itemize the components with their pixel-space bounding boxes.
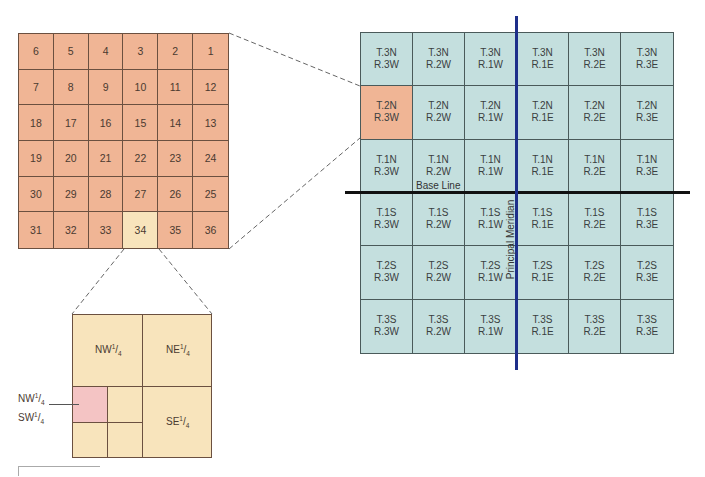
range-label: R.2W [426,219,451,231]
ne-quarter-label: NE1/4 [166,343,190,357]
township-cell: T.1NR.3E [621,140,673,193]
township-label: T.2S [637,260,657,272]
township-label: T.2N [480,100,501,112]
section-cell: 18 [19,105,54,141]
range-label: R.3E [636,326,658,338]
section-cell: 23 [158,141,193,177]
range-label: R.2W [426,326,451,338]
section-cell: 24 [193,141,228,177]
township-cell: T.3SR.3W [361,300,413,353]
range-label: R.1E [531,59,553,71]
township-label: T.2N [584,100,605,112]
township-cell: T.1NR.1W [465,140,517,193]
range-label: R.3E [636,166,658,178]
township-label: T.1S [584,207,604,219]
township-cell: T.3NR.3W [361,33,413,86]
range-label: R.2W [426,59,451,71]
township-cell: T.2SR.2E [569,246,621,299]
township-label: T.2N [637,100,658,112]
township-cell: T.1NR.3W [361,140,413,193]
subquarter-callout-label: NW1/4 SW1/4 [18,390,45,429]
subquarter-hline [73,422,143,423]
township-cell: T.2SR.2W [413,246,465,299]
township-cell: T.2NR.3E [621,86,673,139]
township-cell: T.3SR.1W [465,300,517,353]
township-cell: T.1SR.3W [361,193,413,246]
quarter-hline [73,386,211,387]
township-cell: T.2NR.2W [413,86,465,139]
township-label: T.2N [428,100,449,112]
range-label: R.1W [478,59,503,71]
township-label: T.3N [376,47,397,59]
range-label: R.3W [374,219,399,231]
section-cell: 17 [54,105,89,141]
section-cell: 33 [89,212,124,248]
section-cell: 1 [193,34,228,70]
township-cell: T.3SR.1E [517,300,569,353]
section-cell: 21 [89,141,124,177]
range-label: R.3W [374,326,399,338]
township-cell: T.3NR.1E [517,33,569,86]
range-label: R.1E [531,112,553,124]
township-cell: T.3NR.2W [413,33,465,86]
township-cell: T.1NR.2E [569,140,621,193]
township-label: T.1N [376,154,397,166]
township-label: T.2S [532,260,552,272]
township-label: T.1S [428,207,448,219]
township-label: T.3N [480,47,501,59]
township-label: T.3N [532,47,553,59]
section-cell: 9 [89,70,124,106]
zoom-connector-left [72,249,124,314]
section-cell: 26 [158,177,193,213]
township-label: T.3S [480,314,500,326]
township-cell: T.2NR.1E [517,86,569,139]
range-label: R.1W [478,219,503,231]
township-cell: T.2NR.2E [569,86,621,139]
section-cell: 12 [193,70,228,106]
section-cell: 5 [54,34,89,70]
range-label: R.2W [426,112,451,124]
township-cell: T.1SR.2E [569,193,621,246]
zoom-connector-right [159,249,212,314]
township-label: T.1N [584,154,605,166]
section-cell: 6 [19,34,54,70]
range-label: R.2W [426,166,451,178]
bottom-rule [18,466,100,467]
section-cell: 25 [193,177,228,213]
range-label: R.3E [636,219,658,231]
range-label: R.1E [531,219,553,231]
township-label: T.1N [428,154,449,166]
zoom-connector-top [229,33,360,86]
range-label: R.1W [478,272,503,284]
township-cell: T.2NR.3W [361,86,413,139]
section-cell: 29 [54,177,89,213]
range-label: R.2E [583,59,605,71]
township-cell: T.3SR.2E [569,300,621,353]
township-label: T.1N [480,154,501,166]
section-cell: 4 [89,34,124,70]
zoom-connector-bottom [229,138,360,249]
range-label: R.1W [478,166,503,178]
section-cell: 35 [158,212,193,248]
township-cell: T.3SR.3E [621,300,673,353]
base-line-label: Base Line [416,180,460,191]
range-label: R.3W [374,59,399,71]
principal-meridian-label: Principal Meridian [505,190,516,290]
range-label: R.1W [478,326,503,338]
nw-quarter-label: NW1/4 [95,343,122,357]
range-label: R.3W [374,272,399,284]
section-cell: 2 [158,34,193,70]
range-label: R.1E [531,272,553,284]
range-label: R.3W [374,166,399,178]
range-label: R.3W [374,112,399,124]
township-cell: T.2SR.3W [361,246,413,299]
township-cell: T.2SR.1E [517,246,569,299]
township-label: T.3S [637,314,657,326]
township-label: T.3N [637,47,658,59]
section-cell: 11 [158,70,193,106]
township-label: T.2S [584,260,604,272]
section-cell: 31 [19,212,54,248]
section-cell: 34 [123,212,158,248]
township-label: T.3N [584,47,605,59]
township-label: T.2S [480,260,500,272]
